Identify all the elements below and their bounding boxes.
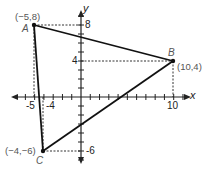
point-c-coord: (−4,−6) — [5, 146, 36, 156]
x-tick-10: 10 — [167, 101, 178, 111]
coordinate-plane-figure: y x 8 4 -6 -5 -4 10 (−5,8) A B (10,4) (−… — [0, 0, 208, 170]
triangle-abc — [34, 25, 173, 151]
y-tick-neg6: -6 — [86, 146, 95, 156]
y-axis — [78, 10, 84, 164]
point-a-label: A — [22, 24, 29, 34]
y-tick-4: 4 — [72, 56, 78, 66]
point-b-label: B — [168, 48, 175, 58]
point-b-coord: (10,4) — [177, 62, 202, 72]
point-c-label: C — [36, 156, 43, 166]
point-a-coord: (−5,8) — [15, 12, 40, 22]
y-tick-8: 8 — [85, 20, 91, 30]
x-axis-arrow-left-icon — [11, 94, 18, 100]
point-b-icon — [171, 59, 175, 63]
x-axis-label: x — [190, 90, 196, 101]
axis-ticks — [25, 16, 183, 160]
point-a-icon — [32, 23, 36, 27]
x-tick-neg5: -5 — [26, 101, 35, 111]
y-axis-label: y — [83, 3, 89, 14]
x-tick-neg4: -4 — [46, 101, 55, 111]
point-c-icon — [41, 149, 45, 153]
